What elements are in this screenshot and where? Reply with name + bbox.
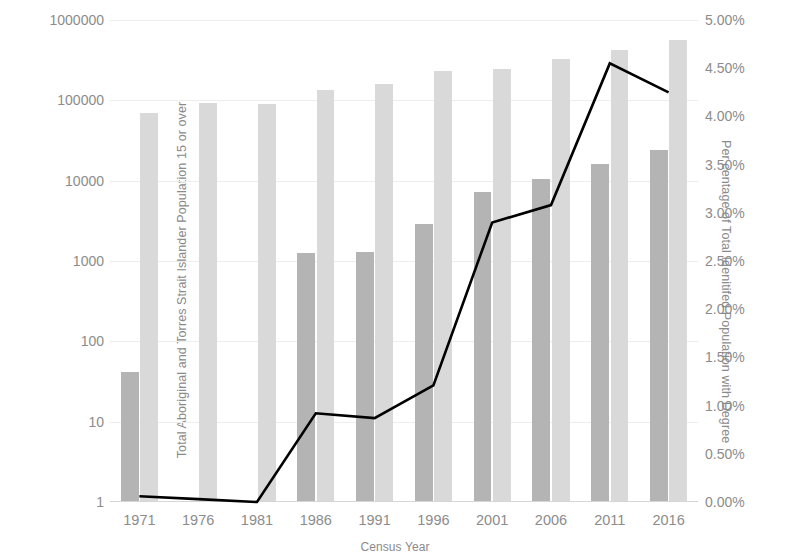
bar-degree: [356, 252, 374, 502]
x-axis-tick: 2011: [594, 512, 625, 528]
bar-total: [140, 113, 158, 502]
x-axis-tick: 1986: [300, 512, 332, 528]
bar-total: [317, 90, 335, 502]
percentage-line: [139, 63, 668, 502]
bar-total: [199, 103, 217, 502]
bar-total: [434, 71, 452, 502]
x-axis-tick: 1996: [417, 512, 449, 528]
x-axis-tick: 2016: [652, 512, 684, 528]
axis-baseline: [110, 501, 698, 502]
bar-total: [552, 59, 570, 502]
bar-total: [493, 69, 511, 502]
chart-container: Total Aboriginal and Torres Strait Islan…: [0, 0, 790, 560]
x-axis-tick: 1991: [358, 512, 390, 528]
x-axis-tick: 2001: [476, 512, 508, 528]
bar-total: [611, 50, 629, 502]
bar-degree: [297, 253, 315, 502]
x-axis-tick: 2006: [535, 512, 567, 528]
plot-area: [110, 20, 698, 502]
bar-degree: [474, 192, 492, 502]
bar-total: [669, 40, 687, 502]
bar-total: [375, 84, 393, 502]
bar-degree: [415, 224, 433, 502]
bar-degree: [591, 164, 609, 502]
x-axis-tick: 1971: [123, 512, 155, 528]
bar-degree: [532, 179, 550, 502]
bar-total: [258, 104, 276, 502]
bar-degree: [121, 372, 139, 502]
x-axis-tick: 1976: [182, 512, 214, 528]
gridline: [110, 20, 698, 21]
bar-degree: [650, 150, 668, 502]
x-axis-tick: 1981: [241, 512, 273, 528]
